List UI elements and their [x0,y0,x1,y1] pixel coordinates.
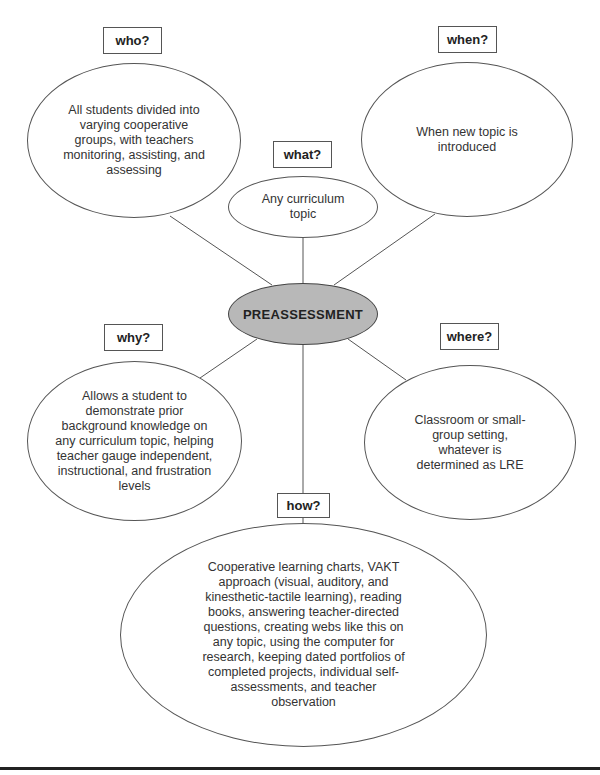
how-bubble: Cooperative learning charts, VAKT approa… [120,523,487,747]
how-label: how? [277,493,330,518]
what-text: Any curriculum topic [258,192,348,222]
when-label: when? [438,26,497,53]
connector-where [348,339,406,380]
where-text: Classroom or small-group setting, whatev… [410,413,530,473]
what-bubble: Any curriculum topic [228,176,378,238]
who-text: All students divided into varying cooper… [59,103,209,178]
where-label: where? [440,323,499,350]
who-bubble: All students divided into varying cooper… [27,63,241,218]
who-label: who? [103,27,162,54]
why-bubble: Allows a student to demonstrate prior ba… [27,361,242,521]
connector-why [200,339,257,378]
when-text: When new topic is introduced [412,125,522,155]
preassessment-center-node: PREASSESSMENT [228,283,378,345]
why-text: Allows a student to demonstrate prior ba… [52,389,217,494]
why-label: why? [104,324,163,351]
when-bubble: When new topic is introduced [361,62,573,217]
how-text: Cooperative learning charts, VAKT approa… [199,560,409,710]
where-bubble: Classroom or small-group setting, whatev… [364,365,576,520]
what-label: what? [273,141,332,168]
bottom-rule [0,767,600,770]
